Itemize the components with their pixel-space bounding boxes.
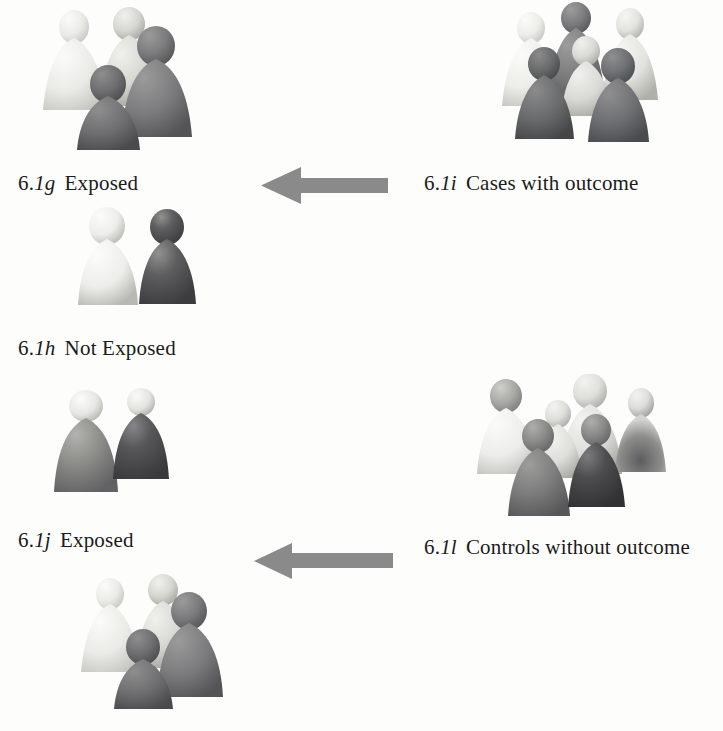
- label-number-italic: 1h: [34, 336, 55, 360]
- not-exposed-controls-cluster: [68, 572, 248, 712]
- label-text: Exposed: [65, 171, 139, 195]
- pawn-figure: [78, 207, 138, 305]
- pawn-figure: [615, 388, 666, 472]
- label-6-1h: 6.1hNot Exposed: [18, 336, 176, 361]
- pawn-figure: [139, 209, 196, 304]
- label-number: 6.1i: [424, 171, 457, 195]
- controls-without-outcome-cluster: [466, 374, 671, 532]
- exposed-cases-cluster: [28, 2, 208, 154]
- label-number-italic: 1g: [34, 171, 55, 195]
- label-6-1j: 6.1jExposed: [18, 528, 134, 553]
- label-text: Exposed: [60, 528, 134, 552]
- label-number: 6.1h: [18, 336, 56, 360]
- label-6-1i: 6.1iCases with outcome: [424, 171, 639, 196]
- label-text: Not Exposed: [65, 336, 176, 360]
- label-number: 6.1g: [18, 171, 56, 195]
- exposed-controls-pair: [48, 388, 188, 503]
- label-text: Cases with outcome: [466, 171, 639, 195]
- arrow-cases: [261, 166, 389, 206]
- pawn-figure: [113, 388, 169, 479]
- label-number: 6.1j: [18, 528, 51, 552]
- label-number-italic: 1l: [440, 535, 457, 559]
- arrow-controls: [254, 542, 394, 580]
- label-6-1l: 6.1lControls without outcome: [424, 535, 690, 560]
- figure-canvas: 6.1gExposed 6.1iCases with outcome: [0, 0, 723, 731]
- cases-with-outcome-cluster: [487, 2, 672, 152]
- label-number: 6.1l: [424, 535, 457, 559]
- pawn-figure: [54, 390, 118, 492]
- label-text: Controls without outcome: [466, 535, 690, 559]
- label-number-italic: 1j: [34, 528, 51, 552]
- label-6-1g: 6.1gExposed: [18, 171, 138, 196]
- not-exposed-cases-pair: [75, 205, 205, 313]
- label-number-italic: 1i: [440, 171, 457, 195]
